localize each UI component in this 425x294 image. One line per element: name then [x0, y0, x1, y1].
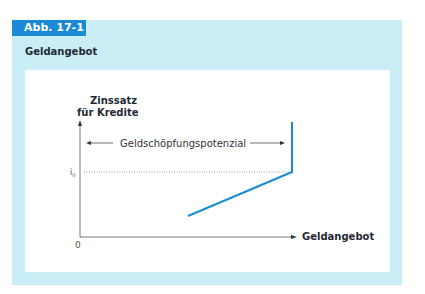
y-axis-arrow-icon — [78, 120, 82, 126]
arrow-right-icon — [280, 141, 285, 145]
supply-curve — [188, 122, 292, 216]
y-axis-label-line2: für Kredite — [77, 107, 139, 118]
arrow-left-icon — [86, 141, 91, 145]
x-axis-arrow-icon — [291, 235, 297, 239]
i0-label: i0 — [70, 168, 75, 178]
y-axis-label-line1: Zinssatz — [90, 95, 137, 106]
annotation-label: Geldschöpfungspotenzial — [120, 138, 246, 149]
origin-label: 0 — [75, 240, 81, 250]
chart-svg: Zinssatz für Kredite Geldschöpfungspoten… — [0, 0, 425, 294]
x-axis-label: Geldangebot — [302, 231, 374, 242]
